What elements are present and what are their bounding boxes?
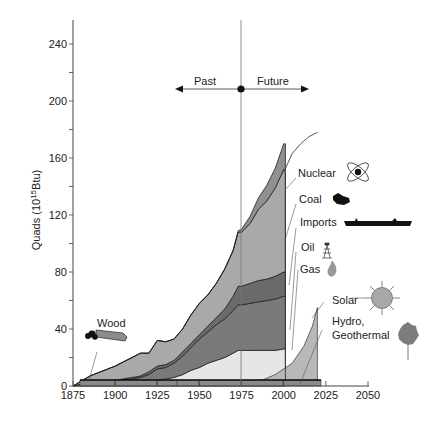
arrow-left-icon <box>175 86 183 93</box>
y-axis-label: Quads (1015Btu) <box>29 170 42 250</box>
x-tick-label: 2025 <box>314 389 338 401</box>
energy-chart: 04080120160200240 1875190019251950197520… <box>0 0 434 421</box>
sun-icon <box>352 281 400 315</box>
label-gas: Gas <box>300 263 321 275</box>
label-hydro-1: Hydro, <box>332 315 364 327</box>
x-tick-label: 1925 <box>145 389 169 401</box>
x-tick-label: 1975 <box>229 389 253 401</box>
tree-icon <box>398 322 419 360</box>
future-label: Future <box>257 75 289 87</box>
oil-derrick-icon <box>322 243 332 258</box>
y-tick-label: 40 <box>55 323 67 335</box>
arrow-right-icon <box>301 86 309 93</box>
flame-icon <box>328 261 336 276</box>
y-axis-ticks: 04080120160200240 <box>49 38 73 392</box>
y-tick-label: 120 <box>49 209 67 221</box>
y-tick-label: 200 <box>49 95 67 107</box>
wood-base-strip <box>80 380 321 386</box>
label-coal: Coal <box>299 193 322 205</box>
x-tick-label: 1875 <box>61 389 85 401</box>
tanker-ship-icon <box>344 218 412 226</box>
label-wood: Wood <box>97 317 126 329</box>
y-tick-label: 160 <box>49 152 67 164</box>
present-marker <box>237 85 244 92</box>
past-label: Past <box>194 75 216 87</box>
label-oil: Oil <box>301 241 314 253</box>
x-tick-label: 1900 <box>103 389 127 401</box>
stacked-areas <box>73 144 285 386</box>
label-solar: Solar <box>332 294 358 306</box>
x-tick-label: 2050 <box>356 389 380 401</box>
y-tick-label: 80 <box>55 266 67 278</box>
label-hydro-2: Geothermal <box>332 329 389 341</box>
label-nuclear: Nuclear <box>298 167 336 179</box>
x-tick-label: 2000 <box>271 389 295 401</box>
x-tick-label: 1950 <box>187 389 211 401</box>
atom-icon <box>345 160 371 184</box>
label-imports: Imports <box>300 216 337 228</box>
coal-lump-icon <box>333 193 350 205</box>
log-icon <box>85 330 127 341</box>
y-tick-label: 240 <box>49 38 67 50</box>
